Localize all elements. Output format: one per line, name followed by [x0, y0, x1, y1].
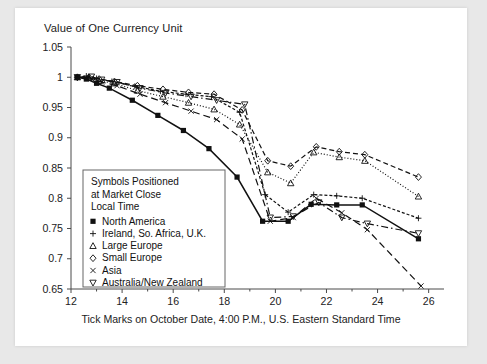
- y-tick-label: 0.95: [42, 101, 63, 113]
- legend-title-line: at Market Close: [91, 189, 161, 200]
- data-point-cross: [418, 283, 423, 288]
- data-point-square-filled: [286, 219, 291, 224]
- legend-item-label: Australia/New Zealand: [102, 277, 203, 288]
- legend-title-line: Local Time: [91, 201, 140, 212]
- y-tick-label: 0.7: [48, 252, 63, 264]
- data-point-cross: [365, 227, 370, 232]
- y-tick-label: 1.05: [42, 41, 63, 53]
- legend-box: Symbols Positionedat Market CloseLocal T…: [83, 170, 225, 288]
- data-point-plus: [415, 215, 421, 221]
- data-point-triangle-up: [236, 121, 242, 127]
- data-point-square-filled: [130, 98, 135, 103]
- data-point-square-filled: [234, 174, 239, 179]
- legend-item[interactable]: Ireland, So. Africa, U.K.: [90, 228, 206, 239]
- y-tick-label: 0.75: [42, 222, 63, 234]
- data-point-square-filled: [260, 219, 265, 224]
- legend-item-label: North America: [102, 216, 166, 227]
- legend-item[interactable]: Australia/New Zealand: [90, 277, 203, 288]
- data-point-diamond: [415, 174, 421, 181]
- x-tick-label: 18: [218, 295, 230, 307]
- legend-title-line: Symbols Positioned: [91, 176, 179, 187]
- y-tick-label: 0.9: [48, 131, 63, 143]
- data-point-plus: [334, 193, 340, 199]
- legend-item-label: Asia: [102, 265, 122, 276]
- data-point-square-filled: [206, 146, 211, 151]
- x-tick-label: 14: [116, 295, 128, 307]
- series-small-europe: [74, 74, 421, 181]
- x-tick-label: 24: [372, 295, 384, 307]
- legend-item-label: Large Europe: [102, 240, 163, 251]
- x-tick-label: 20: [269, 295, 281, 307]
- x-tick-label: 22: [321, 295, 333, 307]
- legend-item-label: Small Europe: [102, 252, 162, 263]
- figure-panel: Value of One Currency Unit 0.650.70.750.…: [15, 8, 467, 346]
- x-axis-label: Tick Marks on October Date, 4:00 P.M., U…: [15, 313, 467, 325]
- legend-item[interactable]: North America: [90, 216, 165, 227]
- y-tick-label: 0.8: [48, 192, 63, 204]
- data-point-square-filled: [360, 202, 365, 207]
- data-point-square-filled: [181, 128, 186, 133]
- data-point-square-filled: [155, 113, 160, 118]
- data-point-square-filled: [90, 219, 95, 224]
- x-tick-label: 26: [423, 295, 435, 307]
- data-point-plus: [359, 195, 365, 201]
- data-point-triangle-up: [288, 180, 294, 186]
- currency-line-chart: 0.650.70.750.80.850.90.9511.051214161820…: [15, 8, 467, 346]
- y-tick-label: 1: [57, 71, 63, 83]
- data-point-cross: [188, 109, 193, 114]
- y-tick-label: 0.85: [42, 162, 63, 174]
- x-tick-label: 16: [167, 295, 179, 307]
- y-tick-label: 0.65: [42, 283, 63, 295]
- data-point-square-filled: [334, 202, 339, 207]
- x-tick-label: 12: [65, 295, 77, 307]
- data-point-triangle-down: [415, 231, 421, 237]
- legend-item-label: Ireland, So. Africa, U.K.: [102, 228, 206, 239]
